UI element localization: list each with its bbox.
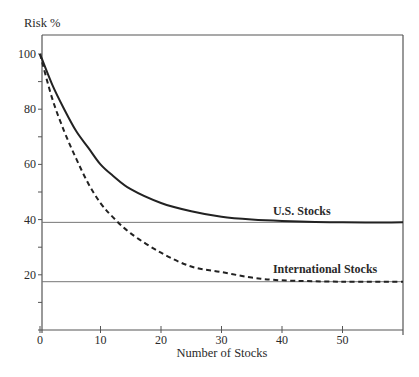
x-tick-label: 30 — [216, 333, 228, 347]
plot-frame — [38, 35, 403, 335]
x-tick-label: 20 — [155, 333, 167, 347]
x-tick-label: 50 — [337, 333, 349, 347]
x-tick-label: 40 — [276, 333, 288, 347]
y-tick-label: 40 — [24, 213, 36, 227]
y-tick-label: 20 — [24, 268, 36, 282]
series-lines — [40, 54, 403, 282]
us-stocks-label: U.S. Stocks — [273, 204, 331, 218]
x-axis-label: Number of Stocks — [177, 346, 268, 360]
international-stocks-label: International Stocks — [273, 262, 378, 276]
y-tick-label: 60 — [24, 157, 36, 171]
international-stocks-curve — [40, 54, 403, 282]
y-axis: 20406080100 — [18, 47, 42, 302]
x-axis: 01020304050 — [37, 326, 349, 347]
risk-diversification-chart: 20406080100 01020304050 U.S. StocksInter… — [0, 0, 419, 377]
x-tick-label: 0 — [37, 333, 43, 347]
y-tick-label: 80 — [24, 102, 36, 116]
annotations: U.S. StocksInternational Stocks — [273, 204, 378, 276]
y-tick-label: 100 — [18, 47, 36, 61]
us-stocks-curve — [40, 54, 403, 222]
x-tick-label: 10 — [95, 333, 107, 347]
y-axis-label: Risk % — [24, 16, 60, 30]
